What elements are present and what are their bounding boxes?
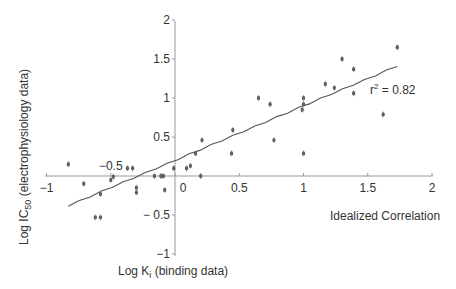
- y-tick-label: 0.5: [153, 130, 170, 144]
- r-squared-label: r2 = 0.82: [370, 82, 416, 97]
- scatter-chart: −1−0.500.511.52 −1− 0.50.511.52 r2 = 0.8…: [0, 0, 456, 289]
- y-axis-title: Log IC50 (electrophysiology data): [17, 69, 33, 245]
- x-ticks: −1−0.500.511.52: [40, 159, 436, 195]
- y-tick-label: 1.5: [153, 52, 170, 66]
- idealized-correlation-label: Idealized Correlation: [330, 209, 440, 223]
- y-tick-label: 1: [163, 91, 170, 105]
- x-tick-label: −1: [40, 181, 54, 195]
- x-tick-label: −0.5: [99, 159, 123, 173]
- x-tick-label: 0.5: [231, 181, 248, 195]
- y-tick-label: −1: [156, 247, 170, 261]
- y-tick-label: 2: [163, 13, 170, 27]
- x-tick-label: 2: [429, 181, 436, 195]
- axes: −1−0.500.511.52 −1− 0.50.511.52: [40, 13, 436, 261]
- y-ticks: −1− 0.50.511.52: [143, 13, 175, 261]
- y-tick-label: − 0.5: [143, 208, 170, 222]
- x-tick-label: 1.5: [359, 181, 376, 195]
- x-tick-label: 1: [300, 181, 307, 195]
- x-tick-label: 0: [180, 181, 187, 195]
- x-axis-title: Log Ki (binding data): [118, 264, 228, 280]
